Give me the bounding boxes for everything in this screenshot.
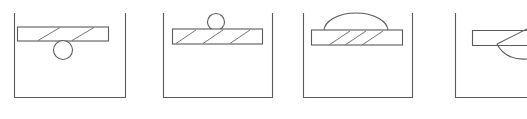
figure-canvas [0, 0, 527, 119]
panel-3 [304, 13, 413, 98]
open-top-container [304, 13, 413, 98]
hatched-bar [18, 27, 109, 41]
panel-1 [15, 13, 126, 98]
panel-2 [164, 13, 273, 98]
open-top-container [456, 13, 527, 98]
dome-arc [324, 13, 388, 31]
ball [54, 41, 73, 60]
panel-4 [456, 13, 527, 98]
partial-arc [497, 29, 527, 44]
ball [208, 14, 225, 31]
figure-root [0, 0, 527, 119]
partial-arc-lower [497, 44, 527, 59]
